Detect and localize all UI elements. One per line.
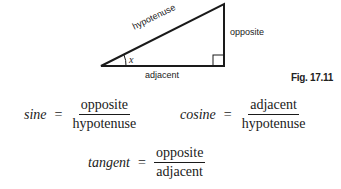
sine-denominator: hypotenuse (70, 115, 138, 132)
angle-x-label: x (129, 54, 133, 65)
cosine-denominator: hypotenuse (240, 115, 308, 132)
opposite-label: opposite (230, 27, 264, 37)
sine-name: sine (24, 107, 47, 123)
cosine-fraction: adjacent hypotenuse (240, 97, 308, 132)
cosine-numerator: adjacent (248, 97, 299, 115)
tangent-fraction: opposite adjacent (154, 145, 205, 180)
sine-fraction: opposite hypotenuse (70, 97, 138, 132)
cosine-equation: cosine = adjacent hypotenuse (180, 97, 307, 132)
equals-sign: = (224, 107, 232, 123)
tangent-equation: tangent = opposite adjacent (88, 145, 205, 180)
tangent-numerator: opposite (154, 145, 205, 163)
triangle-figure: hypotenuse opposite adjacent x Fig. 17.1… (0, 0, 341, 90)
tangent-denominator: adjacent (154, 163, 205, 180)
equals-sign: = (55, 107, 63, 123)
adjacent-label: adjacent (145, 70, 179, 80)
figure-number: Fig. 17.11 (291, 72, 333, 83)
sine-equation: sine = opposite hypotenuse (24, 97, 138, 132)
cosine-name: cosine (180, 107, 216, 123)
equals-sign: = (138, 155, 146, 171)
sine-numerator: opposite (79, 97, 130, 115)
tangent-name: tangent (88, 155, 130, 171)
